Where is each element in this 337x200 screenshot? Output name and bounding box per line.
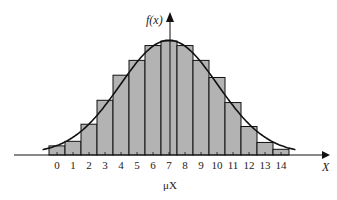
histogram-bars [49,41,289,155]
x-tick-label: 2 [86,159,92,171]
x-tick-labels: 01234567891011121314 [54,159,287,171]
bar-10 [209,77,225,155]
y-axis-label: f(x) [146,13,163,27]
bar-11 [225,103,241,155]
bar-6 [145,46,161,155]
x-tick-label: 12 [244,159,255,171]
x-tick-label: 14 [276,159,288,171]
x-axis-label: X [321,160,330,174]
x-tick-label: 9 [198,159,204,171]
x-tick-label: 7 [166,159,172,171]
x-tick-label: 4 [118,159,124,171]
bar-8 [177,46,193,155]
x-tick-label: 3 [102,159,108,171]
histogram-chart: 01234567891011121314 f(x) X μX [0,0,337,200]
bar-9 [193,60,209,155]
x-tick-label: 5 [134,159,140,171]
x-axis-arrow-icon [322,151,330,159]
bar-7 [161,41,177,155]
bar-4 [113,75,129,155]
bar-5 [129,60,145,155]
x-tick-label: 6 [150,159,156,171]
mean-label: μX [163,179,177,191]
x-tick-label: 10 [212,159,224,171]
x-tick-label: 13 [260,159,272,171]
bar-3 [97,100,113,155]
bar-12 [241,127,257,156]
x-tick-label: 1 [70,159,76,171]
x-tick-label: 8 [182,159,188,171]
y-axis-arrow-icon [166,12,174,22]
x-tick-label: 11 [228,159,239,171]
x-tick-label: 0 [54,159,60,171]
